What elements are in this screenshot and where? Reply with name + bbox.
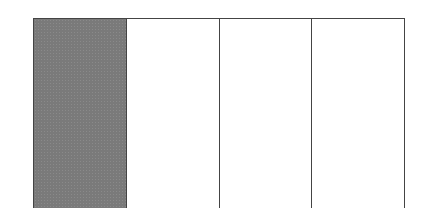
fraction-bar <box>33 18 405 208</box>
bar-part-4 <box>312 19 404 208</box>
bar-part-2 <box>127 19 220 208</box>
bar-part-3 <box>220 19 313 208</box>
bar-part-1-shaded <box>34 19 127 208</box>
